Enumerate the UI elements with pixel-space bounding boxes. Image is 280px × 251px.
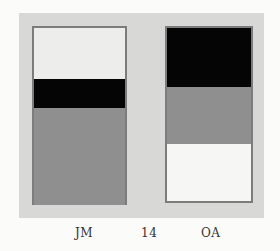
left-light-band xyxy=(34,28,125,79)
right-box-label: OA xyxy=(201,226,221,240)
right-black-band xyxy=(167,28,251,87)
left-gray-band xyxy=(34,108,125,205)
left-color-box xyxy=(32,26,127,205)
right-white-band xyxy=(167,144,251,201)
figure-number-label: 14 xyxy=(141,226,157,240)
right-color-box xyxy=(165,26,253,203)
left-black-band xyxy=(34,79,125,108)
right-gray-band xyxy=(167,87,251,144)
left-box-label: JM xyxy=(75,226,93,240)
